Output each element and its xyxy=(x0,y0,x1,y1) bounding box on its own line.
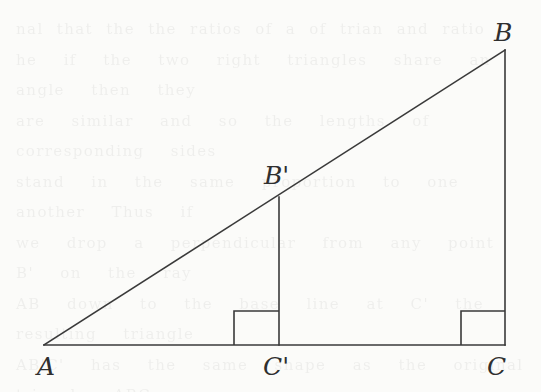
vertex-label-c-prime: C' xyxy=(263,354,289,379)
triangle-diagram-canvas xyxy=(0,0,541,392)
vertex-label-a: A xyxy=(37,354,55,379)
geometry-figure: nal that the the ratios of a of trian an… xyxy=(0,0,541,392)
right-angle-mark-c-icon xyxy=(461,311,505,345)
right-angle-marks-group xyxy=(234,311,505,345)
vertex-label-b: B xyxy=(494,20,512,45)
vertex-label-c: C xyxy=(487,354,506,379)
vertex-label-b-prime: B' xyxy=(264,163,289,188)
right-angle-mark-cprime-icon xyxy=(234,311,279,345)
segments-group xyxy=(44,50,505,345)
hypotenuse-a-to-b-line xyxy=(44,50,505,345)
